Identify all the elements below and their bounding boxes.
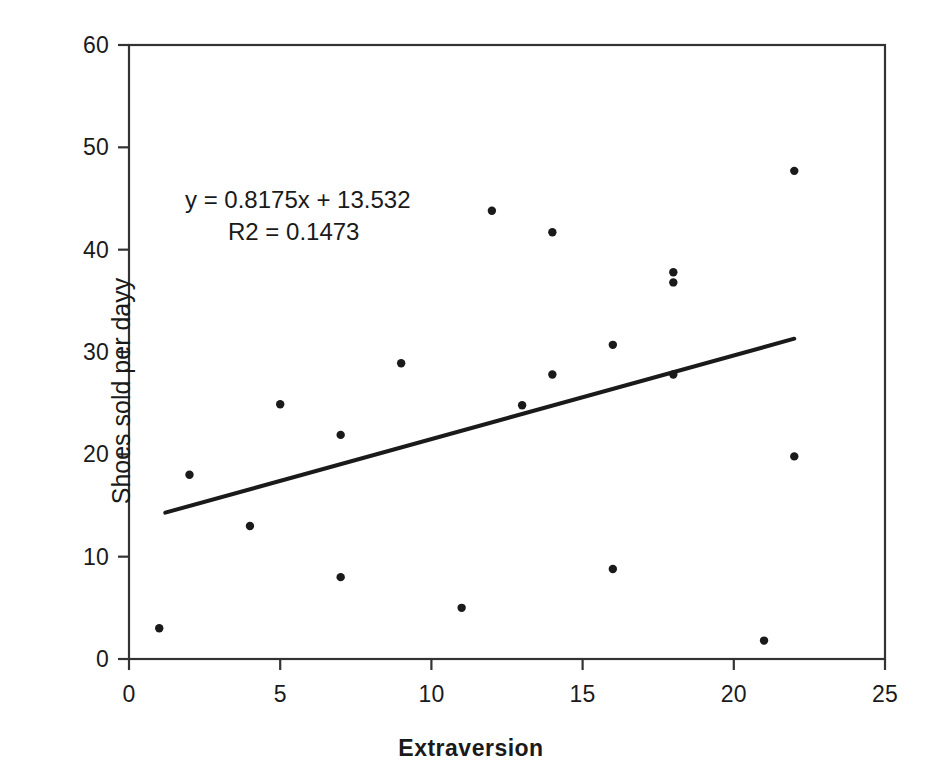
data-point (548, 370, 556, 378)
r-squared-label: R2 = 0.1473 (228, 218, 359, 246)
x-axis-title: Extraversion (0, 735, 942, 762)
x-tick-label: 10 (418, 681, 444, 708)
data-point (488, 207, 496, 215)
y-tick-label: 20 (0, 441, 109, 468)
data-point (548, 228, 556, 236)
axis-ticks (118, 45, 885, 670)
x-tick-label: 0 (123, 681, 136, 708)
trendline (165, 339, 794, 513)
data-point (336, 431, 344, 439)
regression-equation-label: y = 0.8175x + 13.532 (185, 186, 411, 214)
y-tick-label: 0 (0, 646, 109, 673)
x-tick-label: 25 (872, 681, 898, 708)
data-point (760, 636, 768, 644)
data-point (669, 268, 677, 276)
data-point (609, 565, 617, 573)
y-tick-label: 60 (0, 32, 109, 59)
y-tick-label: 50 (0, 134, 109, 161)
x-tick-label: 20 (721, 681, 747, 708)
y-tick-label: 40 (0, 236, 109, 263)
data-point (790, 452, 798, 460)
data-point (790, 167, 798, 175)
data-point (185, 471, 193, 479)
data-point (518, 401, 526, 409)
x-tick-label: 5 (274, 681, 287, 708)
data-point (336, 573, 344, 581)
data-point (246, 522, 254, 530)
data-point (276, 400, 284, 408)
y-axis-title: Shoes sold per dayy (107, 277, 136, 504)
y-tick-label: 30 (0, 339, 109, 366)
data-point (155, 624, 163, 632)
scatter-chart: 0102030405060 0510152025 Shoes sold per … (0, 0, 942, 781)
y-tick-label: 10 (0, 543, 109, 570)
data-point (397, 359, 405, 367)
plot-area-svg (0, 0, 942, 781)
x-tick-label: 15 (570, 681, 596, 708)
plot-frame (129, 45, 885, 659)
data-point (669, 278, 677, 286)
data-point (457, 604, 465, 612)
data-point (669, 370, 677, 378)
data-point (609, 341, 617, 349)
